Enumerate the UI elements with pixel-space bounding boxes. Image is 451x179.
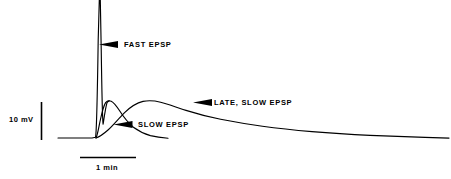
- annotation-label-late-slow-epsp: LATE, SLOW EPSP: [214, 99, 292, 107]
- trace-fast-epsp: [58, 0, 109, 138]
- left-arrowhead-icon-late: [193, 99, 212, 106]
- vertical-scale-label: 10 mV: [9, 116, 34, 124]
- epsp-trace-figure: FAST EPSP SLOW EPSP LATE, SLOW EPSP 10 m…: [0, 0, 451, 179]
- annotation-label-fast-epsp: FAST EPSP: [124, 41, 172, 49]
- trace-plot-canvas: [0, 0, 451, 179]
- annotation-label-slow-epsp: SLOW EPSP: [138, 121, 189, 129]
- left-arrowhead-icon-fast: [99, 41, 118, 48]
- horizontal-scale-label: 1 min: [96, 164, 118, 172]
